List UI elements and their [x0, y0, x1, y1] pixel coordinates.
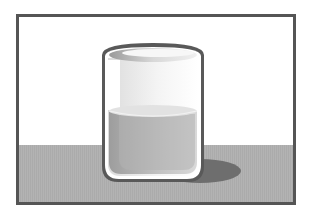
- glass-of-water-illustration: [0, 0, 313, 214]
- glass-interior-left-band: [108, 60, 120, 110]
- water-inner-shade: [119, 114, 195, 170]
- water-surface: [109, 105, 197, 117]
- glass-rim-highlight: [122, 49, 194, 57]
